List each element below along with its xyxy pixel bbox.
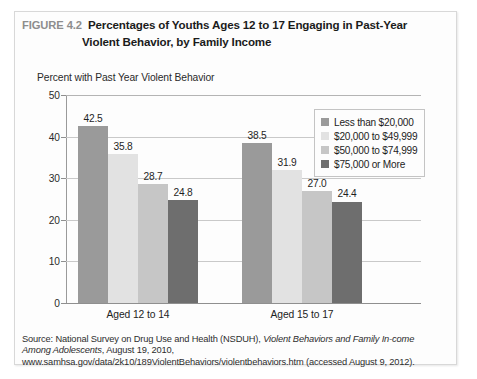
bar-value-label: 27.0 [307,178,326,189]
legend-item[interactable]: Less than $20,000 [321,115,417,129]
y-axis-tick-label: 20 [38,214,60,225]
x-axis-category-label: Aged 12 to 14 [107,309,170,320]
bar [332,202,362,304]
gridline [66,95,421,96]
legend-label: $75,000 or More [334,159,405,170]
source-prefix: Source: National Survey on Drug Use and … [22,334,263,344]
bar [302,191,332,303]
source-note: Source: National Survey on Drug Use and … [22,334,434,368]
legend-label: $20,000 to $49,999 [334,131,417,142]
bar-value-label: 28.7 [143,171,162,182]
y-axis-tick-mark [61,261,66,262]
chart-legend: Less than $20,000$20,000 to $49,999$50,0… [314,109,425,177]
y-axis-tick-label: 40 [38,131,60,142]
y-axis-tick-mark [61,137,66,138]
bar [168,200,198,303]
bar-value-label: 42.5 [83,113,102,124]
figure-heading: FIGURE 4.2Percentages of Youths Ages 12 … [22,16,422,49]
bar-value-label: 38.5 [247,130,266,141]
legend-label: Less than $20,000 [334,117,414,128]
bar [78,126,108,303]
bar-value-label: 24.8 [173,187,192,198]
y-axis-tick-label: 0 [38,298,60,309]
x-axis-line [66,303,421,304]
y-axis-tick-label: 50 [38,90,60,101]
legend-swatch-icon [321,146,329,154]
bar-value-label: 31.9 [277,157,296,168]
legend-swatch-icon [321,132,329,140]
y-axis-tick-label: 10 [38,256,60,267]
x-axis-category-label: Aged 15 to 17 [271,309,334,320]
legend-label: $50,000 to $74,999 [334,145,417,156]
figure-title-line-2: Violent Behavior, by Family Income [82,35,271,48]
y-axis-tick-label: 30 [38,173,60,184]
y-axis-tick-mark [61,303,66,304]
y-axis-tick-mark [61,178,66,179]
figure-title-line-1: Percentages of Youths Ages 12 to 17 Enga… [88,18,407,31]
legend-item[interactable]: $75,000 or More [321,157,417,171]
bar [242,143,272,303]
legend-swatch-icon [321,160,329,168]
y-axis-tick-mark [61,95,66,96]
bar [108,154,138,303]
bar-value-label: 35.8 [113,141,132,152]
bar-value-label: 24.4 [337,188,356,199]
figure-number: FIGURE 4.2 [22,19,82,31]
y-axis-labels: 01020304050 [36,95,60,303]
legend-item[interactable]: $20,000 to $49,999 [321,129,417,143]
bar [272,170,302,303]
legend-item[interactable]: $50,000 to $74,999 [321,143,417,157]
y-axis-tick-mark [61,220,66,221]
chart-subtitle: Percent with Past Year Violent Behavior [37,72,214,83]
bar [138,184,168,303]
legend-swatch-icon [321,118,329,126]
